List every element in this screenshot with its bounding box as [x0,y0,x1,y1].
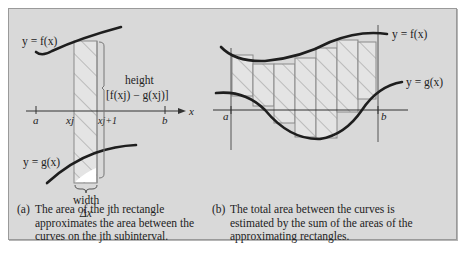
tick-xj-label: xj [65,114,74,126]
caption-a-text: The area of the jth rectangle approximat… [17,203,207,244]
height-expression: [f(xj) − g(xj)] [106,89,169,102]
rect-3 [274,64,295,123]
rect-2 [253,64,274,106]
axis-x-label: x [188,105,194,117]
width-brace [75,185,97,193]
height-label: height [125,74,155,87]
tick-b-label: b [162,114,168,126]
caption-b-tag: (b) [212,203,225,217]
rect-7 [358,42,376,99]
height-brace [99,42,104,178]
curve-f-label-a: y = f(x) [22,35,57,48]
caption-a-tag: (a) [17,203,30,217]
x-axis-arrow-icon [178,108,186,114]
rect-5 [316,48,337,138]
panel-b: a b y = f(x) y = g(x) [213,25,443,150]
rect-4 [295,58,316,137]
tick-xj1-label: xj+1 [97,115,117,126]
curve-g-label-a: y = g(x) [23,156,60,169]
rect-6 [337,40,358,112]
caption-b-text: The total area between the curves is est… [212,203,432,244]
caption-a: (a) The area of the jth rectangle approx… [17,203,207,244]
panel-a: x a xj xj+1 b y = f(x) y = g(x) height [… [22,27,194,219]
tick-b-label-b: b [381,110,387,122]
caption-b: (b) The total area between the curves is… [212,203,432,244]
curve-f-label-b: y = f(x) [392,28,427,41]
tick-a-label-b: a [223,110,229,122]
curve-g-label-b: y = g(x) [406,76,443,89]
tick-a-label: a [33,114,39,126]
